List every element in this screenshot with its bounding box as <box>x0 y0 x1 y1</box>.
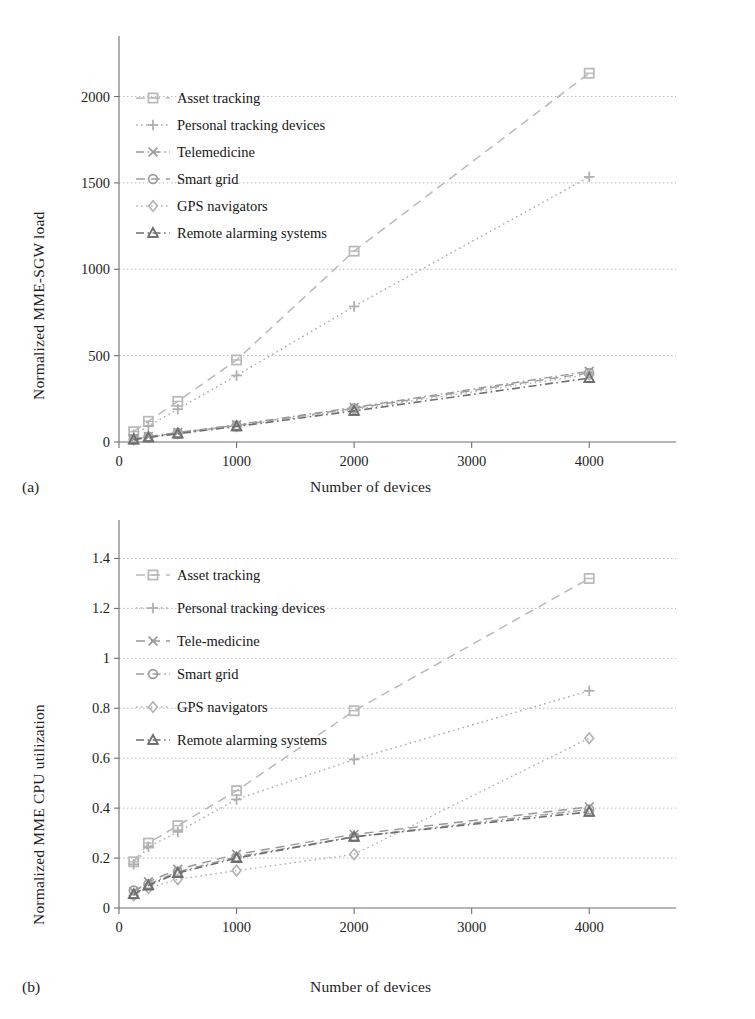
series-line <box>134 378 590 440</box>
y-tick-label: 0.8 <box>92 700 110 716</box>
x-tick-label: 0 <box>115 919 122 935</box>
chart-panel-a: 050010001500200001000200030004000Asset t… <box>0 0 755 510</box>
x-tick-label: 3000 <box>457 919 486 935</box>
y-tick-label: 500 <box>88 348 110 364</box>
panel-tag-a: (a) <box>22 478 39 496</box>
y-tick-label: 0.6 <box>92 750 110 766</box>
x-axis-title-a: Number of devices <box>310 478 431 496</box>
x-tick-label: 1000 <box>222 919 251 935</box>
series-line <box>134 738 590 895</box>
series-remote-alarming-systems <box>129 373 594 443</box>
legend-label: Asset tracking <box>177 567 260 583</box>
legend-label: Asset tracking <box>177 90 260 106</box>
series-line <box>134 812 590 894</box>
tick-labels: 050010001500200001000200030004000 <box>81 89 604 469</box>
chart-legend: Asset trackingPersonal tracking devicesT… <box>136 90 327 241</box>
chart-legend: Asset trackingPersonal tracking devicesT… <box>136 567 327 748</box>
series-smart-grid <box>129 369 593 444</box>
data-point-marker <box>585 733 594 744</box>
y-tick-label: 0.4 <box>92 800 111 816</box>
legend-label: Tele-medicine <box>177 633 260 649</box>
y-tick-label: 1.4 <box>92 550 111 566</box>
legend-label: Telemedicine <box>177 144 255 160</box>
panel-tag-b: (b) <box>22 978 40 996</box>
y-tick-label: 0.2 <box>92 850 110 866</box>
legend-label: Smart grid <box>177 171 239 187</box>
y-tick-label: 0 <box>103 434 110 450</box>
y-tick-label: 1500 <box>81 175 110 191</box>
chart-b-canvas: 00.20.40.60.811.21.401000200030004000Ass… <box>0 500 755 1019</box>
y-axis-title-a: Normalized MME-SGW load <box>30 211 48 400</box>
y-tick-label: 1.2 <box>92 600 110 616</box>
series-line <box>134 371 590 439</box>
y-tick-label: 1000 <box>81 261 110 277</box>
y-tick-label: 0 <box>103 900 110 916</box>
chart-a-canvas: 050010001500200001000200030004000Asset t… <box>0 0 755 510</box>
x-tick-label: 4000 <box>575 453 604 469</box>
series-remote-alarming-systems <box>129 807 594 898</box>
legend-label: Remote alarming systems <box>177 225 327 241</box>
series-telemedicine <box>129 367 593 443</box>
legend-label: Smart grid <box>177 666 239 682</box>
legend-label: GPS navigators <box>177 699 268 715</box>
series-line <box>134 579 590 862</box>
series-line <box>134 691 590 865</box>
x-tick-label: 2000 <box>340 453 369 469</box>
chart-panel-b: 00.20.40.60.811.21.401000200030004000Ass… <box>0 500 755 1019</box>
y-tick-label: 2000 <box>81 89 110 105</box>
series-line <box>134 807 590 892</box>
y-tick-label: 1 <box>103 650 110 666</box>
x-tick-label: 2000 <box>340 919 369 935</box>
x-tick-label: 3000 <box>457 453 486 469</box>
series-line <box>134 177 590 435</box>
figure-page: 050010001500200001000200030004000Asset t… <box>0 0 755 1019</box>
legend-label: Personal tracking devices <box>177 117 326 133</box>
x-tick-label: 1000 <box>222 453 251 469</box>
x-tick-label: 0 <box>115 453 122 469</box>
legend-label: Remote alarming systems <box>177 732 327 748</box>
series-asset-tracking <box>129 574 594 867</box>
x-tick-label: 4000 <box>575 919 604 935</box>
series-line <box>134 809 590 890</box>
x-axis-title-b: Number of devices <box>310 978 431 996</box>
legend-label: Personal tracking devices <box>177 600 326 616</box>
legend-label: GPS navigators <box>177 198 268 214</box>
y-axis-title-b: Normalized MME CPU utilization <box>30 704 48 925</box>
